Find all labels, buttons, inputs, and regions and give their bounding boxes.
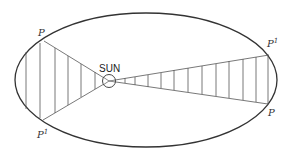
left-bottom-label: P1 [36, 128, 48, 140]
right-top-label: P1 [266, 37, 278, 49]
right-sector [109, 55, 269, 104]
right-bottom-label: P [267, 107, 275, 118]
left-sector [26, 41, 109, 120]
orbit-ellipse [15, 13, 277, 147]
orbit-diagram: SUN P P1 P1 P [0, 0, 291, 152]
left-top-label: P [37, 27, 45, 38]
sun-label: SUN [99, 63, 120, 74]
